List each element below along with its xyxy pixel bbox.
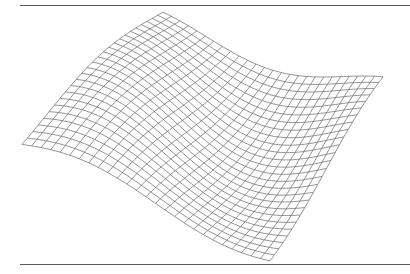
mesh-line (38, 125, 283, 243)
mesh-line (22, 144, 270, 260)
mesh-line (260, 76, 374, 258)
mesh-line (120, 39, 349, 138)
mesh-line (158, 15, 379, 84)
wireframe-surface-plot (0, 0, 410, 274)
mesh-line (147, 21, 370, 99)
mesh-line (127, 64, 256, 184)
mesh-line (27, 138, 274, 255)
mesh-line (152, 18, 374, 92)
mesh-line (82, 73, 318, 188)
mesh-line (44, 118, 288, 236)
bottom-rule (20, 264, 410, 265)
mesh-line (270, 77, 383, 261)
mesh-line (108, 56, 239, 173)
mesh-line (93, 62, 327, 174)
surface-mesh (22, 12, 383, 261)
